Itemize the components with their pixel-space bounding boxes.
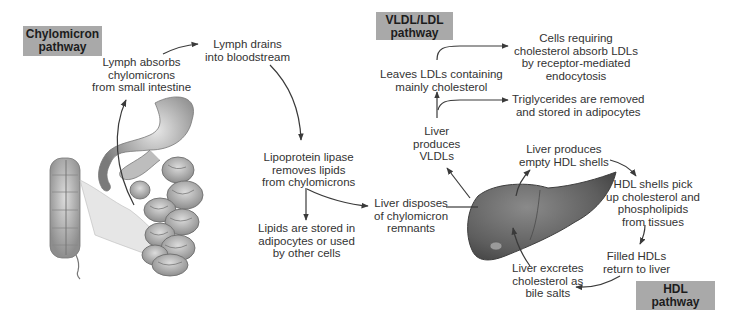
- label-lipids-stored: Lipids are stored in adipocytes or used …: [258, 222, 355, 260]
- label-liver-excretes: Liver excretes cholesterol as bile salts: [512, 262, 584, 300]
- liver-illustration: [468, 172, 616, 260]
- arrow-vldl-to-triglycerides: [438, 100, 508, 110]
- arrow-ldl-to-cells: [437, 46, 508, 60]
- label-leaves-ldl: Leaves LDLs containing mainly cholestero…: [380, 68, 503, 93]
- vldl-ldl-pathway-badge: VLDL/LDL pathway: [376, 12, 453, 40]
- arrow-drains-to-lipase: [270, 65, 301, 140]
- hdl-pathway-badge: HDL pathway: [636, 281, 715, 310]
- label-liver-disposes: Liver disposes of chylomicron remnants: [374, 197, 448, 235]
- label-cells-absorb-ldl: Cells requiring cholesterol absorb LDLs …: [514, 32, 638, 82]
- arrow-liver-to-vldl: [447, 168, 470, 198]
- label-lymph-absorbs: Lymph absorbs chylomicrons from small in…: [92, 56, 191, 94]
- arrow-lymph-absorbs-to-drains: [163, 44, 198, 54]
- label-triglycerides-removed: Triglycerides are removed and stored in …: [512, 93, 645, 118]
- label-liver-produces-hdl: Liver produces empty HDL shells: [519, 143, 609, 168]
- label-lipoprotein-lipase: Lipoprotein lipase removes lipids from c…: [262, 151, 355, 189]
- label-filled-hdl: Filled HDLs return to liver: [603, 250, 670, 275]
- colon-icon: [50, 158, 80, 279]
- chylomicron-pathway-badge: Chylomicron pathway: [23, 26, 102, 56]
- label-lymph-drains: Lymph drains into bloodstream: [205, 38, 290, 63]
- label-hdl-pick-up: HDL shells pick up cholesterol and phosp…: [606, 178, 700, 228]
- arrow-lipase-to-liver-disposes: [307, 189, 368, 206]
- lipoprotein-diagram: Chylomicron pathway VLDL/LDL pathway HDL…: [0, 0, 729, 322]
- label-liver-produces-vldl: Liver produces VLDLs: [413, 125, 460, 163]
